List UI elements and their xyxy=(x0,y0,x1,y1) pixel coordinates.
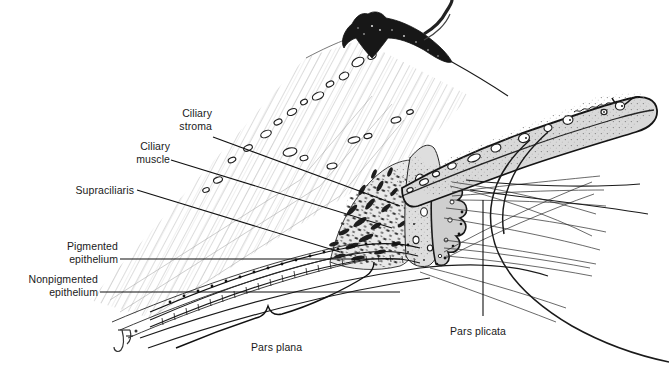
label-ciliary-muscle: Ciliary muscle xyxy=(88,140,170,165)
label-nonpigmented-epithelium: Nonpigmented epithelium xyxy=(6,273,98,298)
illustration-canvas: Ciliary stroma Ciliary muscle Supracilia… xyxy=(0,0,669,370)
label-pigmented-epithelium: Pigmented epithelium xyxy=(38,240,118,265)
artist-signature xyxy=(114,330,137,351)
label-supraciliaris: Supraciliaris xyxy=(50,184,134,197)
label-ciliary-stroma: Ciliary stroma xyxy=(130,107,212,132)
label-pars-plana: Pars plana xyxy=(251,341,302,354)
label-pars-plicata: Pars plicata xyxy=(450,325,506,338)
